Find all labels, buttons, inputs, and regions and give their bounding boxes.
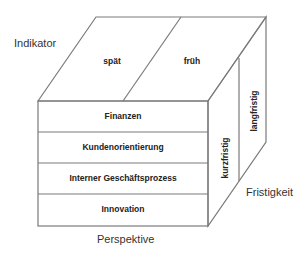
row-kundenorientierung: Kundenorientierung xyxy=(38,142,208,152)
row-innovation: Innovation xyxy=(38,204,208,214)
side-cell-langfristig: langfristig xyxy=(249,81,259,141)
top-cell-frueh: früh xyxy=(172,56,212,66)
axis-label-indikator: Indikator xyxy=(14,37,56,49)
axis-label-fristigkeit: Fristigkeit xyxy=(246,186,293,198)
row-interner-geschaeftsprozess: Interner Geschäftsprozess xyxy=(38,173,208,183)
side-cell-kurzfristig: kurzfristig xyxy=(220,128,230,188)
row-finanzen: Finanzen xyxy=(38,111,208,121)
top-cell-spaet: spät xyxy=(92,56,132,66)
axis-label-perspektive: Perspektive xyxy=(97,233,154,245)
